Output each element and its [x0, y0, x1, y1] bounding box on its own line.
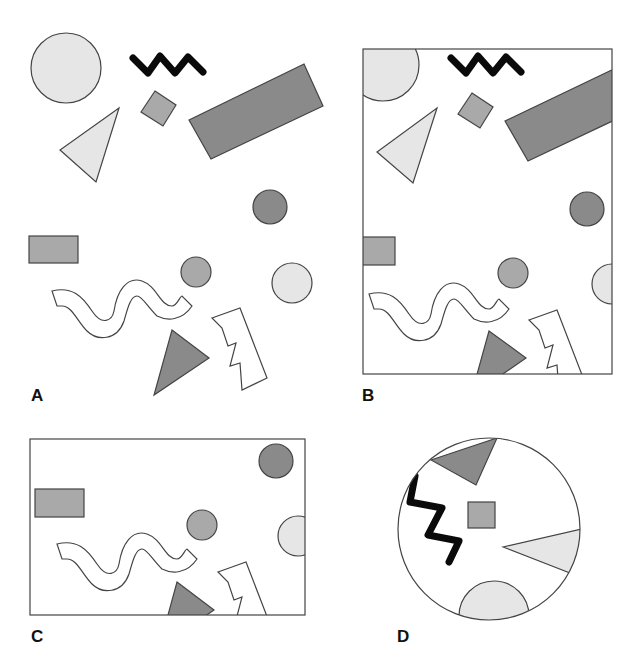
small-square — [141, 91, 176, 126]
small-rectangle — [29, 236, 78, 263]
panel-a — [29, 33, 323, 395]
panel-c — [30, 439, 318, 648]
mid-circle — [181, 257, 211, 287]
wavy-shape — [52, 280, 192, 338]
dark-rectangle — [189, 64, 323, 159]
figure-canvas — [0, 0, 643, 660]
light-triangle — [60, 108, 119, 182]
light-circle-small — [272, 263, 312, 303]
light-circle — [31, 33, 101, 103]
panel-d — [398, 438, 590, 651]
panel-b — [347, 29, 640, 396]
zigzag-line — [133, 56, 203, 73]
dark-circle — [253, 190, 287, 224]
bolt-shape — [212, 308, 267, 390]
panel-label-d: D — [397, 627, 409, 647]
panel-label-b: B — [362, 386, 374, 406]
panel-label-c: C — [31, 627, 43, 647]
dark-triangle — [154, 330, 209, 395]
panel-label-a: A — [31, 386, 43, 406]
